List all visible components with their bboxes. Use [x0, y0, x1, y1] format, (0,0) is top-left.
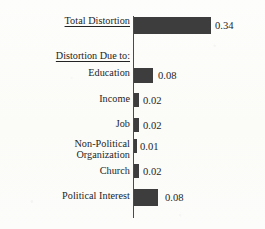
bar-chart-figure: Total Distortion 0.34 Distortion Due to:…	[0, 0, 265, 229]
bar-non-political-organization	[134, 139, 137, 153]
bar-label-non-political-organization-line1: Non-Political	[2, 138, 130, 149]
category-axis-line	[133, 16, 134, 218]
section-header-distortion-due-to: Distortion Due to:	[2, 50, 130, 61]
bar-value-church: 0.02	[143, 166, 162, 177]
bar-value-education: 0.08	[158, 70, 177, 81]
bar-label-political-interest: Political Interest	[2, 190, 130, 201]
bar-label-job: Job	[2, 118, 130, 129]
bar-value-total-distortion: 0.34	[215, 20, 234, 31]
bar-income	[134, 93, 139, 107]
bar-education	[134, 68, 153, 83]
bar-value-job: 0.02	[143, 120, 162, 131]
bar-job	[134, 118, 139, 132]
bar-label-non-political-organization-line2: Organization	[2, 149, 130, 160]
bar-value-non-political-organization: 0.01	[140, 141, 159, 152]
bar-label-total-distortion: Total Distortion	[2, 15, 130, 26]
bar-value-income: 0.02	[143, 95, 162, 106]
bar-church	[134, 164, 139, 178]
bar-label-education: Education	[2, 67, 130, 78]
bar-total-distortion	[134, 17, 211, 34]
bar-label-income: Income	[2, 93, 130, 104]
bar-label-church: Church	[2, 165, 130, 176]
bar-value-political-interest: 0.08	[165, 192, 184, 203]
bar-political-interest	[134, 189, 158, 206]
